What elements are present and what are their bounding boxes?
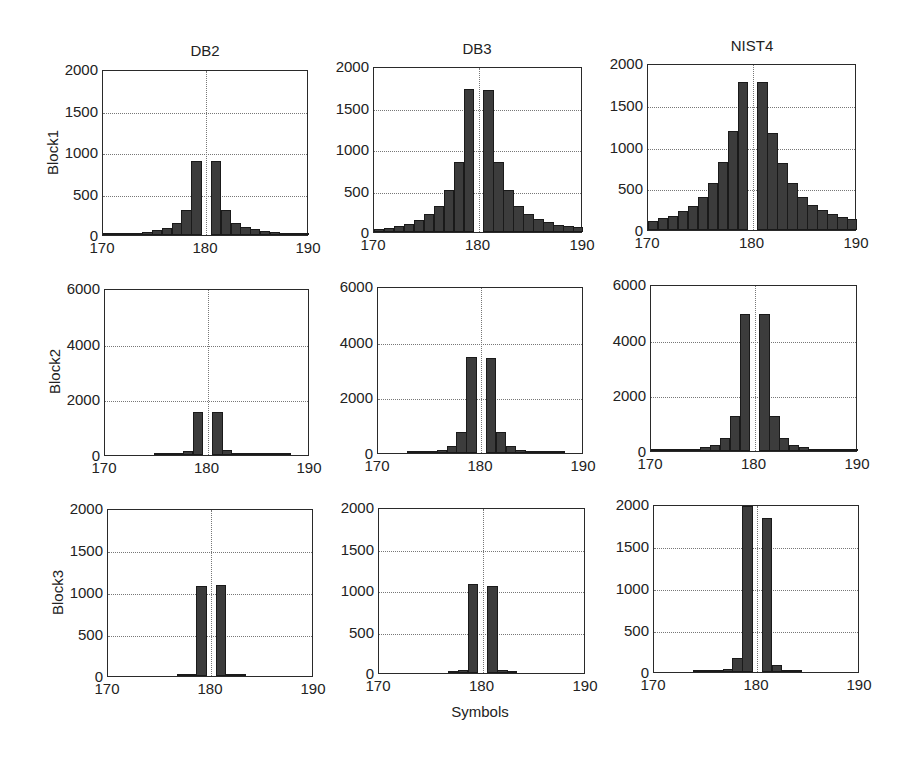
y-tick-label: 2000 bbox=[586, 388, 646, 403]
histogram-bar bbox=[573, 227, 583, 232]
x-tick-label: 170 bbox=[82, 240, 122, 255]
x-tick-label: 170 bbox=[84, 460, 124, 475]
grid-line-vertical bbox=[753, 65, 754, 230]
histogram-bar bbox=[236, 674, 246, 676]
histogram-bar bbox=[186, 674, 196, 676]
histogram-bar bbox=[261, 453, 271, 455]
x-tick-label: 190 bbox=[288, 240, 328, 255]
row-label-block1: Block1 bbox=[44, 113, 61, 193]
histogram-bar bbox=[553, 225, 563, 232]
histogram-bar bbox=[271, 453, 281, 455]
histogram-bar bbox=[191, 161, 201, 235]
grid-line-horizontal bbox=[108, 594, 312, 595]
row-label-block3: Block3 bbox=[49, 553, 66, 633]
y-tick-label: 2000 bbox=[583, 56, 643, 71]
histogram-bar bbox=[427, 451, 437, 453]
histogram-bar bbox=[152, 230, 162, 235]
histogram-bar bbox=[281, 453, 291, 455]
histogram-bar bbox=[838, 449, 848, 451]
histogram-bar bbox=[698, 197, 708, 230]
grid-line-horizontal bbox=[379, 551, 584, 552]
y-tick-label: 1500 bbox=[589, 539, 649, 554]
y-tick-label: 1000 bbox=[583, 140, 643, 155]
histogram-bar bbox=[242, 453, 252, 455]
y-tick-label: 500 bbox=[314, 625, 374, 640]
histogram-bar bbox=[454, 162, 464, 232]
histogram-bar bbox=[799, 447, 809, 451]
grid-line-vertical bbox=[757, 506, 758, 672]
histogram-bar bbox=[837, 217, 847, 230]
histogram-bar bbox=[742, 506, 752, 672]
x-tick-label: 180 bbox=[734, 456, 774, 471]
histogram-bar bbox=[767, 133, 777, 230]
x-tick-label: 170 bbox=[358, 678, 398, 693]
x-tick-label: 190 bbox=[565, 678, 605, 693]
axes-block2-db2 bbox=[104, 289, 309, 456]
x-axis-label: Symbols bbox=[420, 703, 540, 720]
histogram-bar bbox=[260, 231, 270, 235]
grid-line-vertical bbox=[483, 509, 484, 673]
histogram-bar bbox=[782, 670, 792, 672]
histogram-bar bbox=[817, 210, 827, 230]
histogram-bar bbox=[250, 229, 260, 235]
histogram-bar bbox=[759, 314, 769, 451]
histogram-bar bbox=[732, 658, 742, 672]
grid-line-horizontal bbox=[648, 190, 855, 191]
histogram-bar bbox=[437, 450, 447, 453]
grid-line-horizontal bbox=[378, 344, 582, 345]
histogram-bar bbox=[847, 219, 857, 230]
grid-line-vertical bbox=[208, 290, 209, 455]
grid-line-vertical bbox=[211, 510, 212, 676]
x-tick-label: 170 bbox=[353, 237, 393, 252]
histogram-bar bbox=[468, 584, 478, 673]
histogram-bar bbox=[787, 183, 797, 230]
histogram-bar bbox=[693, 670, 703, 672]
histogram-bar bbox=[113, 233, 123, 235]
histogram-bar bbox=[497, 670, 507, 673]
histogram-bar bbox=[791, 670, 801, 672]
histogram-bar bbox=[154, 453, 164, 455]
axes-block1-nist4 bbox=[647, 64, 856, 231]
histogram-bar bbox=[181, 210, 191, 235]
histogram-bar bbox=[728, 131, 738, 230]
grid-line-vertical bbox=[481, 288, 482, 453]
x-tick-label: 180 bbox=[462, 678, 502, 693]
histogram-bar bbox=[172, 223, 182, 235]
histogram-bar bbox=[444, 190, 454, 232]
x-tick-label: 190 bbox=[837, 456, 877, 471]
axes-block2-db3 bbox=[377, 287, 583, 454]
histogram-bar bbox=[456, 432, 466, 453]
histogram-bar bbox=[196, 586, 206, 676]
y-tick-label: 4000 bbox=[586, 333, 646, 348]
histogram-bar bbox=[648, 221, 658, 230]
histogram-bar bbox=[807, 205, 817, 230]
histogram-bar bbox=[668, 216, 678, 230]
histogram-bar bbox=[661, 449, 671, 451]
y-tick-label: 4000 bbox=[313, 335, 373, 350]
y-tick-label: 2000 bbox=[309, 59, 369, 74]
x-tick-label: 180 bbox=[732, 235, 772, 250]
histogram-bar bbox=[240, 227, 250, 235]
axes-block1-db3 bbox=[373, 67, 582, 233]
grid-line-horizontal bbox=[108, 636, 312, 637]
histogram-bar bbox=[730, 416, 740, 451]
grid-line-horizontal bbox=[379, 634, 584, 635]
column-title-db2: DB2 bbox=[145, 42, 265, 59]
y-tick-label: 1000 bbox=[309, 142, 369, 157]
histogram-bar bbox=[690, 449, 700, 451]
histogram-bar bbox=[447, 446, 457, 453]
histogram-bar bbox=[414, 220, 424, 232]
grid-line-horizontal bbox=[105, 346, 308, 347]
histogram-bar bbox=[507, 671, 517, 673]
x-tick-label: 190 bbox=[293, 681, 333, 696]
histogram-bar bbox=[493, 162, 503, 232]
histogram-bar bbox=[404, 224, 414, 232]
histogram-bar bbox=[183, 451, 193, 455]
histogram-bar bbox=[769, 416, 779, 451]
histogram-bar bbox=[710, 445, 720, 451]
histogram-bar bbox=[384, 228, 394, 233]
y-tick-label: 2000 bbox=[313, 390, 373, 405]
histogram-bar bbox=[193, 412, 203, 455]
x-tick-label: 170 bbox=[357, 458, 397, 473]
x-tick-label: 190 bbox=[836, 235, 876, 250]
